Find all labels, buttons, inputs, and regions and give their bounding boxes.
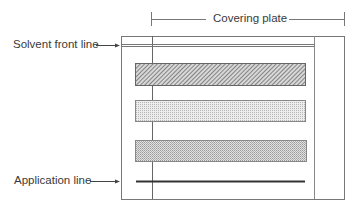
solvent-front-label: Solvent front line — [13, 39, 99, 51]
application-line-label: Application line — [14, 175, 91, 187]
covering-plate-label: Covering plate — [213, 13, 287, 25]
band-1-hatched — [136, 64, 306, 86]
solvent-front-arrow — [96, 44, 120, 48]
band-3-dense-dots — [136, 141, 307, 162]
solvent-front-line — [121, 45, 315, 47]
application-arrow — [90, 180, 120, 184]
band-2-light-dots — [136, 101, 306, 122]
